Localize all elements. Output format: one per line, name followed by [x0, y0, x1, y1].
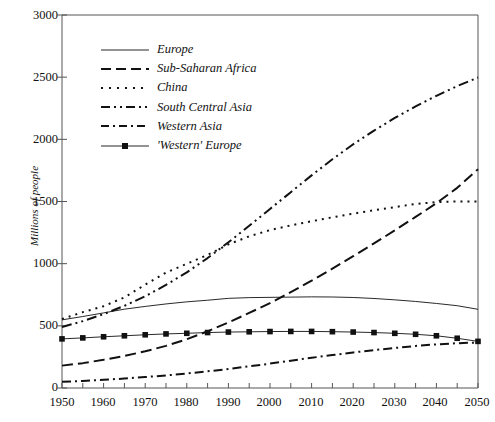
series-marker [163, 331, 169, 337]
legend-item-south-central-asia: South Central Asia [99, 98, 309, 117]
series-marker [309, 329, 315, 335]
x-axis-ticks [62, 383, 478, 388]
legend-label: Europe [151, 42, 193, 57]
series-marker [226, 329, 232, 335]
legend-label: China [151, 80, 188, 95]
legend-key-dash-dot-dot-icon [99, 100, 151, 114]
legend-label: Sub-Saharan Africa [151, 61, 256, 76]
legend-item-western-europe: 'Western' Europe [99, 136, 309, 155]
legend: Europe Sub-Saharan Africa China South Ce… [99, 40, 309, 155]
legend-item-europe: Europe [99, 40, 309, 59]
legend-key-solid-square-marker-icon [99, 139, 151, 153]
series-marker [122, 333, 128, 339]
legend-key-dotted-icon [99, 81, 151, 95]
legend-label: South Central Asia [151, 100, 252, 115]
series-marker [246, 329, 252, 335]
series-marker [371, 330, 377, 336]
series-marker [80, 335, 86, 341]
series-marker [434, 333, 440, 339]
series-marker [205, 330, 211, 336]
population-projection-chart: Millions of people 3000 2500 2000 1500 1… [0, 0, 495, 422]
legend-key-solid-icon [99, 43, 151, 57]
series-marker [454, 335, 460, 341]
series-marker [413, 331, 419, 337]
series-marker [184, 330, 190, 336]
legend-label: Western Asia [151, 119, 222, 134]
series-marker [350, 329, 356, 335]
series-line [62, 342, 478, 381]
series-marker [267, 329, 273, 335]
series-marker [142, 332, 148, 338]
legend-item-sub-saharan-africa: Sub-Saharan Africa [99, 59, 309, 78]
series-marker [101, 334, 107, 340]
legend-key-dashed-icon [99, 62, 151, 76]
series-marker [475, 339, 481, 345]
series-marker [392, 330, 398, 336]
series-marker [330, 329, 336, 335]
legend-item-china: China [99, 78, 309, 97]
legend-key-dash-dot-icon [99, 119, 151, 133]
series-marker [288, 329, 294, 335]
series-marker [59, 336, 65, 342]
legend-item-western-asia: Western Asia [99, 117, 309, 136]
legend-label: 'Western' Europe [151, 138, 242, 153]
series-line [62, 297, 478, 320]
